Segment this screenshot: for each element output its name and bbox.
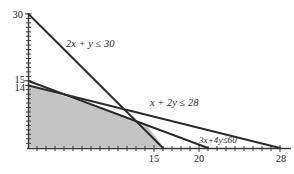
constraint-label-2x-plus-y: 2x + y ≤ 30 <box>66 38 115 49</box>
x-tick-label-15: 15 <box>149 153 160 164</box>
plot-area: 30 15 14 15 20 28 2x + y ≤ 30 x + 2y ≤ 2… <box>0 0 294 174</box>
constraint-label-3x-plus-4y: 3x+4y≤60 <box>198 135 237 145</box>
linear-programming-chart: 30 15 14 15 20 28 2x + y ≤ 30 x + 2y ≤ 2… <box>0 0 294 174</box>
y-tick-label-14: 14 <box>15 82 26 93</box>
x-tick-label-28: 28 <box>276 153 287 164</box>
constraint-label-x-plus-2y: x + 2y ≤ 28 <box>149 97 199 108</box>
feasible-region-shading <box>29 86 163 148</box>
x-tick-label-20: 20 <box>194 153 205 164</box>
y-tick-label-30: 30 <box>13 9 24 20</box>
